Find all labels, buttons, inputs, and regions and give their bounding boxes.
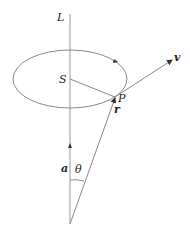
axis-arrowhead [68, 143, 72, 148]
position-vector-r [70, 98, 115, 224]
label-S: S [59, 73, 67, 86]
label-v: v [174, 51, 181, 64]
radius-line [70, 79, 115, 97]
theta-arc [70, 180, 84, 181]
label-theta: θ [75, 163, 82, 176]
rotation-diagram: L S P v r a θ [0, 0, 190, 234]
label-L: L [56, 11, 64, 24]
label-a: a [61, 162, 68, 175]
